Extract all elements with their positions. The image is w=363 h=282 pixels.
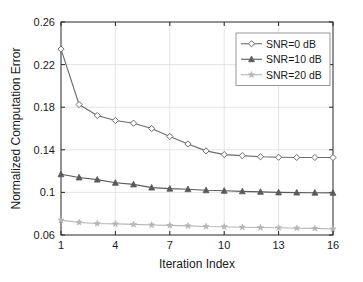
star-marker (203, 223, 209, 229)
diamond-marker (221, 151, 227, 157)
star-marker (130, 221, 136, 227)
series-2 (58, 217, 336, 232)
data-point-marker-star (130, 221, 136, 227)
line-chart: 0.060.10.140.180.220.26147101316Iteratio… (0, 0, 363, 282)
star-marker (76, 219, 82, 225)
diamond-marker (149, 125, 155, 131)
data-point-marker-diamond (330, 154, 336, 160)
diamond-marker (130, 120, 136, 126)
triangle-marker (58, 171, 64, 177)
data-point-marker-star (294, 225, 300, 231)
data-point-marker-star (94, 220, 100, 226)
diamond-marker (167, 133, 173, 139)
star-marker (312, 225, 318, 231)
x-tick-label: 13 (272, 239, 284, 251)
diamond-marker (239, 153, 245, 159)
x-tick-label: 4 (112, 239, 118, 251)
diamond-marker (330, 154, 336, 160)
star-marker (239, 224, 245, 230)
x-tick-label: 10 (218, 239, 230, 251)
legend-label-1: SNR=10 dB (266, 53, 322, 65)
x-axis-title: Iteration Index (159, 257, 235, 271)
star-marker (185, 223, 191, 229)
series-line (61, 220, 333, 229)
data-point-marker-star (76, 219, 82, 225)
diamond-marker (58, 46, 64, 52)
chart-figure: 0.060.10.140.180.220.26147101316Iteratio… (0, 0, 363, 282)
data-point-marker-diamond (130, 120, 136, 126)
data-point-marker-star (257, 224, 263, 230)
data-point-marker-diamond (76, 101, 82, 107)
star-marker (149, 222, 155, 228)
data-point-marker-diamond (58, 46, 64, 52)
legend-label-0: SNR=0 dB (266, 38, 316, 50)
y-tick-label: 0.18 (34, 101, 55, 113)
x-tick-label: 1 (58, 239, 64, 251)
diamond-marker (294, 154, 300, 160)
data-point-marker-diamond (94, 112, 100, 118)
diamond-marker (312, 154, 318, 160)
diamond-marker (94, 112, 100, 118)
data-point-marker-triangle (58, 171, 64, 177)
legend-label-2: SNR=20 dB (266, 69, 322, 81)
star-marker (294, 225, 300, 231)
star-marker (257, 224, 263, 230)
data-point-marker-diamond (203, 148, 209, 154)
data-point-marker-star (185, 223, 191, 229)
series-line (61, 174, 333, 193)
y-tick-label: 0.22 (34, 59, 55, 71)
data-point-marker-diamond (221, 151, 227, 157)
data-point-marker-diamond (276, 154, 282, 160)
x-tick-label: 7 (167, 239, 173, 251)
diamond-marker (276, 154, 282, 160)
data-point-marker-star (149, 222, 155, 228)
y-tick-label: 0.26 (34, 16, 55, 28)
diamond-marker (203, 148, 209, 154)
series-1 (58, 171, 336, 195)
diamond-marker (185, 141, 191, 147)
data-point-marker-diamond (112, 117, 118, 123)
data-point-marker-diamond (185, 141, 191, 147)
legend: SNR=0 dBSNR=10 dBSNR=20 dB (236, 33, 330, 86)
diamond-marker (76, 101, 82, 107)
x-tick-label: 16 (327, 239, 339, 251)
data-point-marker-diamond (239, 153, 245, 159)
data-point-marker-diamond (149, 125, 155, 131)
data-point-marker-star (312, 225, 318, 231)
y-axis-title: Normalized Computation Error (9, 47, 23, 209)
y-tick-label: 0.06 (34, 229, 55, 241)
data-point-marker-diamond (167, 133, 173, 139)
data-point-marker-diamond (257, 154, 263, 160)
y-tick-label: 0.14 (34, 144, 55, 156)
y-tick-label: 0.1 (40, 186, 55, 198)
diamond-marker (257, 154, 263, 160)
data-point-marker-diamond (294, 154, 300, 160)
data-point-marker-star (203, 223, 209, 229)
data-point-marker-diamond (312, 154, 318, 160)
star-marker (94, 220, 100, 226)
data-point-marker-star (239, 224, 245, 230)
diamond-marker (112, 117, 118, 123)
